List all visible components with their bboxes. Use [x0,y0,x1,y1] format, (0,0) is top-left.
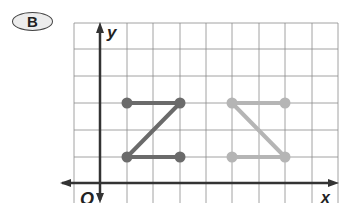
x-axis-left-arrow-icon [60,179,71,187]
y-axis-arrow-icon [96,22,104,33]
vertex-point [175,152,186,163]
vertex-point [280,152,291,163]
x-axis-label: x [320,189,331,203]
vertex-point [122,152,133,163]
y-axis-label: y [106,23,118,42]
vertex-point [227,98,238,109]
vertex-point [227,152,238,163]
vertex-point [122,98,133,109]
coordinate-grid: y x O [0,0,350,203]
y-axis-down-arrow-icon [96,193,104,203]
grid-lines [74,23,338,203]
vertex-point [175,98,186,109]
x-axis-arrow-icon [328,179,339,187]
vertex-point [280,98,291,109]
origin-label: O [80,189,94,203]
